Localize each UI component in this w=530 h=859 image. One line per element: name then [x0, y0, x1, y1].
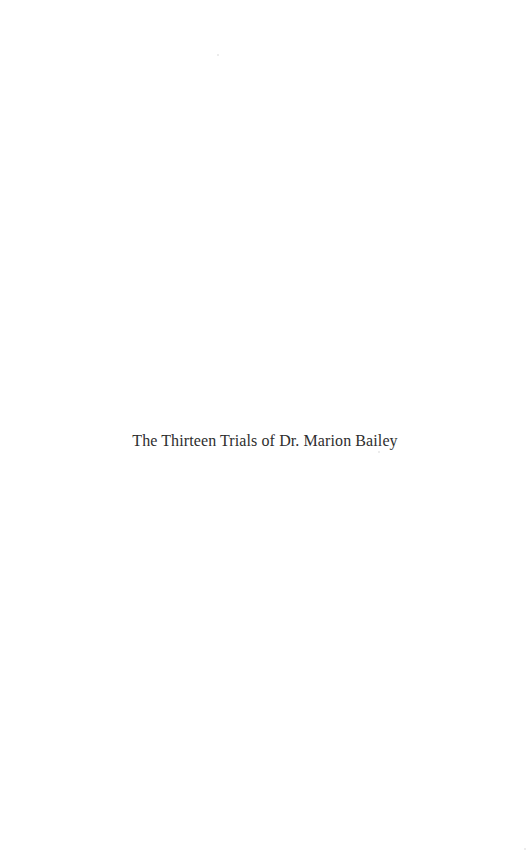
- scan-artifact: [217, 54, 219, 56]
- document-page: The Thirteen Trials of Dr. Marion Bailey: [0, 0, 530, 859]
- scan-artifact: [378, 451, 380, 453]
- scan-artifact: [524, 848, 526, 850]
- book-title: The Thirteen Trials of Dr. Marion Bailey: [0, 432, 530, 450]
